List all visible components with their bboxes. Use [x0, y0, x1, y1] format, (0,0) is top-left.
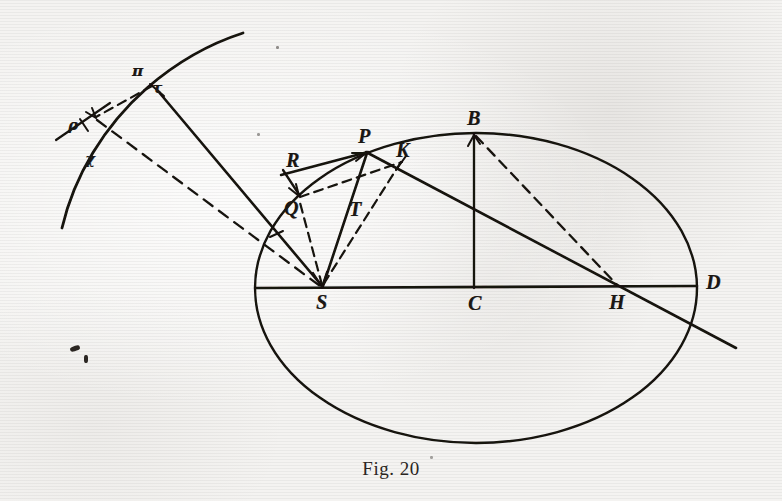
label-c: C	[468, 293, 481, 313]
paper-speck	[257, 133, 260, 136]
label-p: P	[358, 126, 370, 146]
label-h: H	[609, 292, 625, 312]
figure-drawing	[0, 0, 782, 501]
label-tau: τ	[152, 81, 162, 96]
label-r: R	[286, 150, 299, 170]
paper-speck	[276, 46, 279, 49]
figure-caption: Fig. 20	[0, 458, 782, 480]
label-pi: π	[132, 64, 143, 79]
dashed-k-s	[323, 162, 401, 285]
label-rho: ρ	[68, 118, 78, 133]
figure-page: ρ π τ χ R Q P K T S B C H D Fig. 20	[0, 0, 782, 501]
dashed-q-k	[300, 162, 402, 197]
label-chi: χ	[85, 152, 95, 167]
auxiliary-arc	[62, 33, 243, 228]
label-s: S	[316, 292, 327, 312]
label-k: K	[396, 140, 409, 160]
label-b: B	[467, 108, 480, 128]
label-d: D	[706, 272, 720, 292]
paper-speck	[84, 355, 88, 363]
label-t: T	[349, 199, 361, 219]
label-q: Q	[284, 198, 298, 218]
segment-p-h-extended	[366, 152, 736, 348]
tangent-at-chi	[56, 103, 110, 140]
